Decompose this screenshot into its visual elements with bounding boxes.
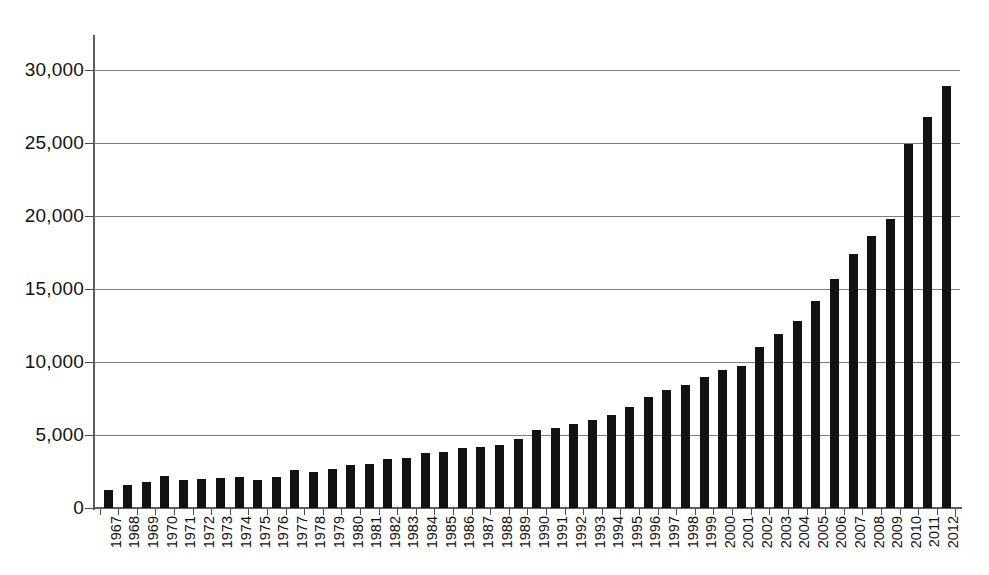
- x-axis-tick-label: 1999: [704, 516, 719, 548]
- bar: [123, 485, 132, 508]
- x-axis-tick-label: 1988: [500, 516, 515, 548]
- x-axis-tick-label: 1989: [518, 516, 533, 548]
- x-axis-tick-label: 1998: [686, 516, 701, 548]
- x-axis-tick-label: 2011: [927, 516, 942, 547]
- x-axis-tick: [379, 509, 380, 515]
- x-axis-tick-label: 1997: [667, 516, 682, 548]
- bar: [867, 236, 876, 508]
- bar: [625, 407, 634, 508]
- x-axis-tick: [527, 509, 528, 515]
- x-axis-tick: [267, 509, 268, 515]
- x-axis-tick: [565, 509, 566, 515]
- x-axis-tick-label: 1983: [406, 516, 421, 548]
- x-axis-tick: [937, 509, 938, 515]
- y-axis-tick-label: 20,000: [25, 206, 84, 225]
- x-axis-tick: [155, 509, 156, 515]
- x-axis-tick-label: 2005: [816, 516, 831, 548]
- x-axis-tick-label: 1987: [481, 516, 496, 548]
- y-axis-tick-label: 0: [73, 498, 84, 517]
- x-axis-tick: [304, 509, 305, 515]
- x-axis-tick-label: 2003: [779, 516, 794, 548]
- x-axis-tick: [118, 509, 119, 515]
- x-axis-tick-label: 1995: [630, 516, 645, 548]
- bar: [793, 321, 802, 508]
- y-axis-tick-label: 30,000: [25, 60, 84, 79]
- x-axis-tick: [472, 509, 473, 515]
- x-axis-tick-label: 1975: [258, 516, 273, 548]
- bar: [290, 470, 299, 508]
- x-axis-tick-label: 1981: [369, 516, 384, 548]
- x-axis-tick: [713, 509, 714, 515]
- bar-chart: 05,00010,00015,00020,00025,00030,000 196…: [0, 0, 989, 575]
- bar: [142, 482, 151, 508]
- x-axis-tick: [174, 509, 175, 515]
- bar: [811, 301, 820, 508]
- bar: [365, 464, 374, 508]
- bars-container: [93, 70, 960, 508]
- x-axis-tick: [416, 509, 417, 515]
- x-axis-tick-label: 2002: [760, 516, 775, 548]
- bar: [346, 465, 355, 508]
- x-axis-tick-label: 1973: [220, 516, 235, 548]
- x-axis-tick-label: 1991: [555, 516, 570, 548]
- bar: [216, 478, 225, 508]
- bar: [439, 452, 448, 508]
- bar: [942, 86, 951, 508]
- x-axis-tick-label: 1971: [183, 516, 198, 548]
- x-axis-tick-label: 1980: [351, 516, 366, 548]
- x-axis-tick-label: 2000: [723, 516, 738, 548]
- bar: [830, 279, 839, 508]
- bar: [309, 472, 318, 509]
- x-axis-tick-label: 1970: [165, 516, 180, 548]
- bar: [253, 480, 262, 508]
- x-axis-tick-label: 2010: [909, 516, 924, 548]
- x-axis-tick: [434, 509, 435, 515]
- bar: [235, 477, 244, 508]
- x-axis-tick: [583, 509, 584, 515]
- x-axis-tick: [137, 509, 138, 515]
- x-axis-tick: [490, 509, 491, 515]
- y-axis-tick-label: 10,000: [25, 352, 84, 371]
- bar: [662, 390, 671, 508]
- x-axis-tick-label: 1976: [276, 516, 291, 548]
- x-axis-tick-label: 1969: [146, 516, 161, 548]
- x-axis-tick: [620, 509, 621, 515]
- x-axis-tick: [751, 509, 752, 515]
- bar: [904, 144, 913, 508]
- x-axis-tick-label: 1986: [462, 516, 477, 548]
- bar: [532, 430, 541, 508]
- x-axis-tick: [695, 509, 696, 515]
- x-axis-tick: [230, 509, 231, 515]
- bar: [514, 439, 523, 508]
- bar: [104, 490, 113, 508]
- y-axis-tick-label: 15,000: [25, 279, 84, 298]
- x-axis-tick: [658, 509, 659, 515]
- x-axis-tick-label: 1990: [537, 516, 552, 548]
- bar: [495, 445, 504, 508]
- x-axis-tick: [769, 509, 770, 515]
- x-axis-tick: [193, 509, 194, 515]
- x-axis-tick-label: 1993: [593, 516, 608, 548]
- bar: [328, 469, 337, 508]
- bar: [458, 448, 467, 508]
- bar: [402, 458, 411, 508]
- x-axis-tick-label: 1996: [648, 516, 663, 548]
- x-axis-tick: [825, 509, 826, 515]
- x-axis-tick: [900, 509, 901, 515]
- y-axis-tick-label: 5,000: [35, 425, 84, 444]
- x-axis-tick: [360, 509, 361, 515]
- x-axis-tick: [286, 509, 287, 515]
- bar: [923, 117, 932, 508]
- x-axis-tick-label: 2009: [890, 516, 905, 548]
- x-axis-tick: [807, 509, 808, 515]
- bar: [700, 377, 709, 508]
- x-axis-tick-label: 1972: [202, 516, 217, 548]
- y-axis-tick-label: 25,000: [25, 133, 84, 152]
- bar: [588, 420, 597, 508]
- x-axis-tick: [602, 509, 603, 515]
- x-axis-tick-label: 1994: [611, 516, 626, 548]
- bar: [644, 397, 653, 508]
- x-axis-tick: [881, 509, 882, 515]
- x-axis-tick-label: 1984: [425, 516, 440, 548]
- x-axis-tick-label: 1968: [127, 516, 142, 548]
